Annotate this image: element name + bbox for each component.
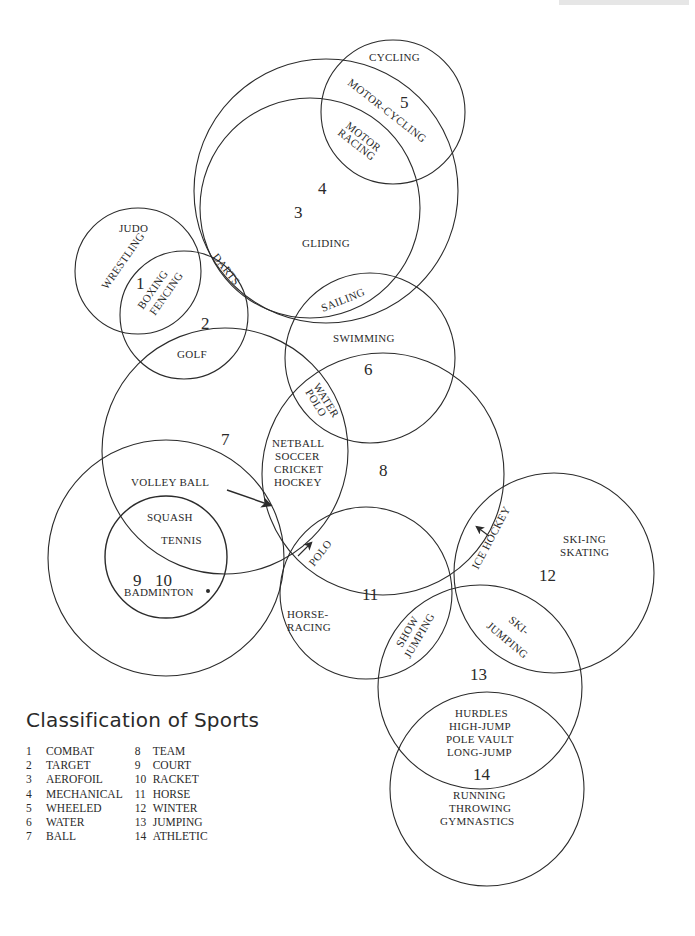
legend-item: 2TARGET (26, 758, 123, 772)
legend-item: 3AEROFOIL (26, 772, 123, 786)
badminton-dot (206, 589, 210, 593)
legend-item: 6WATER (26, 815, 123, 829)
label-polo: POLO (306, 537, 334, 568)
label-gymnastics: GYMNASTICS (440, 815, 515, 827)
label-horse-racing: RACING (287, 621, 331, 633)
label-high-jump: HIGH-JUMP (449, 720, 511, 732)
number-5: 5 (400, 93, 409, 112)
label-long-jump: LONG-JUMP (447, 746, 512, 758)
legend-item: 10RACKET (135, 772, 208, 786)
legend-item: 7BALL (26, 829, 123, 843)
number-8: 8 (379, 461, 388, 480)
legend: Classification of Sports 1COMBAT 2TARGET… (26, 708, 259, 843)
label-soccer: SOCCER (275, 450, 320, 462)
label-golf: GOLF (177, 348, 207, 360)
label-cricket: CRICKET (274, 463, 323, 475)
number-4: 4 (318, 179, 327, 198)
legend-item: 12WINTER (135, 801, 208, 815)
label-skiing: SKI-ING (563, 533, 606, 545)
legend-column-2: 8TEAM 9COURT 10RACKET 11HORSE 12WINTER 1… (135, 744, 208, 843)
label-swimming: SWIMMING (333, 332, 395, 344)
label-darts: DARTS (210, 251, 242, 287)
legend-item: 13JUMPING (135, 815, 208, 829)
legend-item: 9COURT (135, 758, 208, 772)
label-gliding: GLIDING (302, 237, 350, 249)
circle-water (285, 273, 455, 443)
label-running: RUNNING (453, 789, 506, 801)
label-hockey: HOCKEY (274, 476, 322, 488)
label-ice-hockey: ICE HOCKEY (469, 504, 512, 571)
label-skating: SKATING (560, 546, 609, 558)
label-tennis: TENNIS (161, 534, 202, 546)
label-horse: HORSE- (287, 608, 329, 620)
number-6: 6 (364, 360, 373, 379)
label-hurdles: HURDLES (455, 707, 508, 719)
number-11: 11 (362, 585, 378, 604)
number-3: 3 (294, 203, 303, 222)
label-squash: SQUASH (147, 511, 193, 523)
legend-item: 8TEAM (135, 744, 208, 758)
legend-item: 14ATHLETIC (135, 829, 208, 843)
number-13: 13 (470, 665, 487, 684)
label-cycling: CYCLING (369, 51, 420, 63)
legend-item: 11HORSE (135, 787, 208, 801)
diagram-title: Classification of Sports (26, 708, 259, 732)
label-netball: NETBALL (272, 437, 324, 449)
label-pole-vault: POLE VAULT (446, 733, 514, 745)
label-badminton: BADMINTON (124, 586, 194, 598)
number-1: 1 (136, 274, 145, 293)
label-sailing: SAILING (319, 285, 366, 313)
legend-item: 1COMBAT (26, 744, 123, 758)
legend-column-1: 1COMBAT 2TARGET 3AEROFOIL 4MECHANICAL 5W… (26, 744, 123, 843)
number-12: 12 (539, 566, 556, 585)
legend-item: 4MECHANICAL (26, 787, 123, 801)
label-judo: JUDO (119, 222, 148, 234)
label-volleyball: VOLLEY BALL (131, 476, 209, 488)
label-throwing: THROWING (449, 802, 511, 814)
number-14: 14 (473, 765, 491, 784)
number-7: 7 (221, 430, 230, 449)
legend-item: 5WHEELED (26, 801, 123, 815)
number-2: 2 (201, 314, 210, 333)
